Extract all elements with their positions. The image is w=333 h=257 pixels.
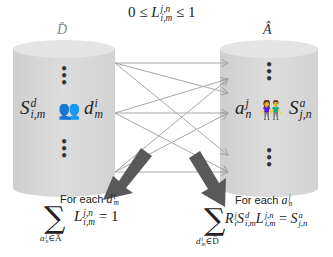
left-sum-symbol: ∑ <box>44 203 65 233</box>
left-item-label: dim <box>84 97 103 120</box>
left-sum-index: ajn∈Â <box>40 233 61 244</box>
people-group-icon: 👥 <box>58 99 71 120</box>
right-node-label: Saj,n <box>289 97 312 120</box>
right-set-title: Â <box>263 22 272 38</box>
left-set-title: D̂ <box>57 22 67 38</box>
left-node-label: Sdi,m <box>20 97 45 120</box>
left-top-ellipsis: ••• <box>58 66 70 87</box>
right-sum-symbol: ∑ <box>204 205 225 235</box>
right-sum-index: dim∈D̂ <box>196 236 219 247</box>
left-constraint-caption: For each dim <box>60 192 119 207</box>
left-sum-term: Lj,ni,m = 1 <box>74 208 118 226</box>
people-pair-icon: 👫 <box>260 99 282 120</box>
right-item-label: ajn <box>235 97 251 120</box>
link-arrows <box>115 63 228 172</box>
right-top-ellipsis: ••• <box>263 62 275 83</box>
right-sum-term: RjiSdi,mLj,ni,m = Saj,n <box>225 211 307 228</box>
link-constraint: 0 ≤ Lj,ni,m ≤ 1 <box>128 4 195 22</box>
right-bottom-ellipsis: ••• <box>263 148 275 169</box>
right-constraint-caption: For each ajn <box>235 193 292 208</box>
left-bottom-ellipsis: ••• <box>58 139 70 160</box>
